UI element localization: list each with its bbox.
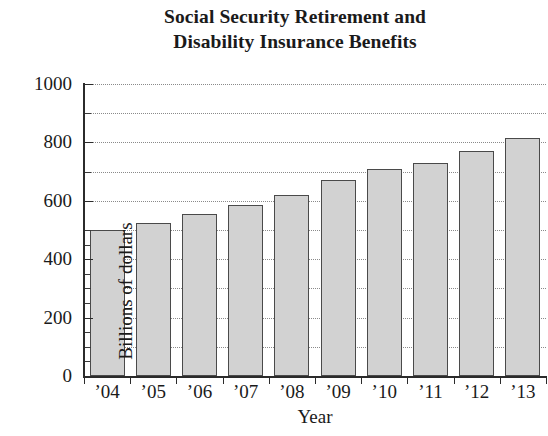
x-axis-tick-label: ’11 bbox=[407, 382, 453, 402]
x-axis-tick-label: ’06 bbox=[176, 382, 222, 402]
y-axis-tick-label: 1000 bbox=[34, 74, 72, 93]
y-axis-tick-label: 600 bbox=[44, 191, 73, 210]
y-axis-tick-label: 200 bbox=[44, 308, 73, 327]
y-axis-tick-label: 0 bbox=[63, 366, 73, 385]
y-axis-tick-label: 800 bbox=[44, 132, 73, 151]
y-axis-tick-label: 400 bbox=[44, 249, 73, 268]
x-axis-tick-label: ’09 bbox=[315, 382, 361, 402]
x-axis-tick-label: ’10 bbox=[361, 382, 407, 402]
x-axis-tick-label: ’04 bbox=[84, 382, 130, 402]
x-axis-tick-labels: ’04’05’06’07’08’09’10’11’12’13 bbox=[84, 0, 546, 436]
x-axis-tick-label: ’05 bbox=[130, 382, 176, 402]
x-axis-title: Year bbox=[84, 406, 546, 428]
x-axis-tick bbox=[546, 376, 547, 384]
x-axis-tick-label: ’12 bbox=[454, 382, 500, 402]
x-axis-tick-label: ’13 bbox=[500, 382, 546, 402]
x-axis-tick-label: ’07 bbox=[223, 382, 269, 402]
y-axis-tick-labels: 02004006008001000 bbox=[0, 0, 78, 436]
chart-figure: Social Security Retirement and Disabilit… bbox=[0, 0, 548, 436]
x-axis-tick-label: ’08 bbox=[269, 382, 315, 402]
